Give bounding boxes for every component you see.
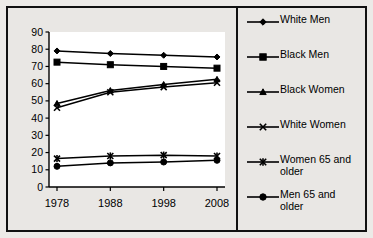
line-chart-svg: 01020304050607080901978198819982008	[8, 8, 236, 230]
x-marker-icon	[246, 120, 280, 134]
legend-label: White Women	[280, 119, 346, 131]
chart-legend: White Men Black Men Black Women White Wo…	[236, 8, 365, 230]
legend-item-white-men[interactable]: White Men	[246, 14, 361, 49]
triangle-marker-icon	[246, 85, 280, 99]
svg-text:90: 90	[31, 26, 43, 38]
svg-text:1988: 1988	[98, 197, 122, 209]
svg-text:2008: 2008	[205, 197, 229, 209]
legend-label: Black Women	[280, 84, 345, 96]
asterisk-marker-icon	[246, 155, 280, 169]
svg-text:1978: 1978	[45, 197, 69, 209]
square-marker-icon	[246, 50, 280, 64]
svg-text:30: 30	[31, 129, 43, 141]
chart-figure: 01020304050607080901978198819982008 Whit…	[0, 0, 373, 238]
svg-text:20: 20	[31, 146, 43, 158]
svg-text:80: 80	[31, 43, 43, 55]
legend-item-men-65-and-older[interactable]: Men 65 and older	[246, 189, 361, 224]
legend-label: Women 65 and older	[280, 154, 351, 177]
legend-item-white-women[interactable]: White Women	[246, 119, 361, 154]
svg-text:50: 50	[31, 94, 43, 106]
legend-item-women-65-and-older[interactable]: Women 65 and older	[246, 154, 361, 189]
legend-label: Black Men	[280, 49, 329, 61]
svg-text:1998: 1998	[151, 197, 175, 209]
svg-text:10: 10	[31, 163, 43, 175]
diamond-marker-icon	[246, 15, 280, 29]
legend-label: Men 65 and older	[280, 189, 335, 212]
legend-item-black-men[interactable]: Black Men	[246, 49, 361, 84]
legend-label: White Men	[280, 14, 330, 26]
svg-text:0: 0	[37, 181, 43, 193]
circle-marker-icon	[246, 190, 280, 204]
plot-panel: 01020304050607080901978198819982008	[8, 8, 236, 230]
svg-text:70: 70	[31, 60, 43, 72]
svg-text:60: 60	[31, 77, 43, 89]
svg-text:40: 40	[31, 112, 43, 124]
legend-item-black-women[interactable]: Black Women	[246, 84, 361, 119]
chart-frame: 01020304050607080901978198819982008 Whit…	[6, 6, 367, 232]
